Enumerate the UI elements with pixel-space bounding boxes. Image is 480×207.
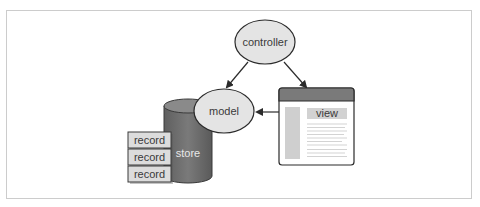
store-label: store [176, 147, 200, 159]
controller-node: controller [235, 20, 295, 64]
record-label: record [134, 134, 165, 146]
record-label: record [134, 168, 165, 180]
records-stack: record record record [128, 132, 173, 184]
view-node: view [279, 88, 354, 165]
record-1: record [128, 132, 171, 148]
controller-label: controller [242, 36, 288, 48]
view-label: view [316, 107, 338, 119]
view-sidebar [285, 107, 300, 159]
record-label: record [134, 151, 165, 163]
record-3: record [128, 166, 171, 182]
model-label: model [209, 105, 239, 117]
record-2: record [128, 149, 171, 165]
mvc-diagram: store record record record model control… [0, 0, 480, 207]
model-node: model [194, 89, 254, 133]
